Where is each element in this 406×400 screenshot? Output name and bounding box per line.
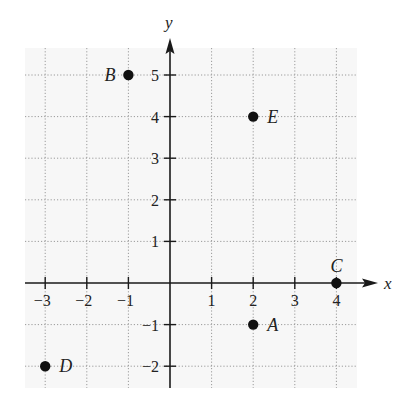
point-marker-icon [248,111,258,121]
point-label: B [104,65,115,85]
x-tick-label: −1 [117,292,134,309]
x-tick-label: 1 [208,292,216,309]
point-label: C [330,256,343,276]
point-marker-icon [248,319,258,329]
y-axis-label: y [163,13,173,32]
y-tick-label: 2 [151,192,159,209]
x-axis-label: x [383,274,392,293]
point-marker-icon [123,70,133,80]
y-tick-label: 1 [151,233,159,250]
point-marker-icon [331,278,341,288]
point-c: C [330,256,343,288]
x-tick-label: −3 [34,292,51,309]
x-tick-label: 4 [332,292,340,309]
y-tick-label: 5 [151,67,159,84]
point-marker-icon [40,361,50,371]
coordinate-plane: xy −3−2−11234−2−112345 ABCDE [0,0,406,400]
y-tick-label: 3 [151,150,159,167]
point-label: A [266,315,279,335]
point-label: D [58,356,72,376]
x-tick-label: 2 [249,292,257,309]
y-tick-label: −2 [142,358,159,375]
x-tick-label: −2 [75,292,92,309]
y-tick-label: 4 [151,109,159,126]
y-tick-label: −1 [142,317,159,334]
grid-background [25,48,357,388]
x-tick-label: 3 [291,292,299,309]
point-label: E [266,107,278,127]
